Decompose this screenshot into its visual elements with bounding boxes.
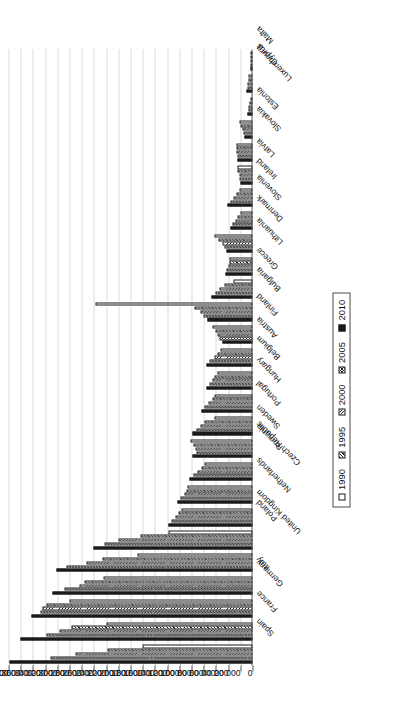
bar-1995 bbox=[236, 146, 252, 149]
bar-2005 bbox=[209, 382, 252, 385]
bar-1995 bbox=[201, 466, 252, 469]
bar-2000 bbox=[219, 287, 252, 290]
bar-2005 bbox=[237, 154, 252, 157]
bar-group bbox=[8, 505, 252, 528]
bar-2000 bbox=[233, 196, 252, 199]
rotated-chart-canvas: 400 000380 000360 000340 000320 000300 0… bbox=[0, 0, 415, 713]
legend-item-1990: 1990 bbox=[336, 469, 346, 500]
bar-1990 bbox=[187, 485, 252, 488]
bar-1995 bbox=[237, 169, 252, 172]
axis-tick-label: 0 bbox=[247, 669, 252, 678]
category-label: France bbox=[254, 589, 278, 613]
bar-1995 bbox=[194, 306, 252, 309]
legend-label-2010: 2010 bbox=[336, 299, 346, 320]
bar-1995 bbox=[237, 215, 252, 218]
bar-2010 bbox=[237, 158, 252, 161]
legend-item-2005: 2005 bbox=[336, 342, 346, 373]
chart-legend: 19901995200020052010 bbox=[332, 292, 350, 507]
category-label: Italy bbox=[254, 554, 271, 571]
bar-2010 bbox=[168, 523, 252, 526]
bar-2000 bbox=[212, 378, 252, 381]
bar-1995 bbox=[224, 283, 252, 286]
bar-group bbox=[8, 72, 252, 95]
bar-group bbox=[8, 300, 252, 323]
bar-2005 bbox=[215, 291, 252, 294]
bar-2000 bbox=[235, 219, 252, 222]
bar-2000 bbox=[208, 401, 252, 404]
legend-swatch-2010 bbox=[338, 324, 345, 331]
bar-group bbox=[8, 414, 252, 437]
plot-area bbox=[8, 49, 252, 665]
legend-item-2010: 2010 bbox=[336, 299, 346, 330]
legend-item-2000: 2000 bbox=[336, 384, 346, 415]
category-label: Finland bbox=[254, 291, 279, 316]
axis-tick-label: 20 000 bbox=[214, 669, 240, 678]
bar-2010 bbox=[20, 637, 252, 640]
bar-1990 bbox=[240, 211, 252, 214]
bar-1990 bbox=[214, 394, 252, 397]
bar-1995 bbox=[212, 397, 252, 400]
bar-1990 bbox=[204, 462, 252, 465]
bar-2000 bbox=[195, 447, 252, 450]
bar-2010 bbox=[230, 226, 252, 229]
bar-2000 bbox=[200, 310, 252, 313]
bar-1995 bbox=[46, 603, 252, 606]
bar-2000 bbox=[236, 150, 252, 153]
legend-label-1990: 1990 bbox=[336, 469, 346, 490]
bar-1990 bbox=[237, 165, 252, 168]
bar-1995 bbox=[229, 260, 252, 263]
bar-1990 bbox=[95, 302, 252, 305]
legend-label-1995: 1995 bbox=[336, 426, 346, 447]
bar-group bbox=[8, 574, 252, 597]
bar-2005 bbox=[50, 656, 252, 659]
category-label: Slovakia bbox=[254, 104, 282, 132]
bar-group bbox=[8, 254, 252, 277]
bar-group bbox=[8, 346, 252, 369]
bar-1995 bbox=[140, 534, 252, 537]
bar-1990 bbox=[217, 371, 252, 374]
bar-2010 bbox=[240, 181, 252, 184]
bar-group bbox=[8, 437, 252, 460]
bar-1990 bbox=[168, 530, 252, 533]
bar-2005 bbox=[46, 633, 252, 636]
bar-1995 bbox=[236, 192, 252, 195]
bar-2005 bbox=[180, 496, 252, 499]
bar-1990 bbox=[220, 348, 252, 351]
bar-2000 bbox=[79, 584, 252, 587]
bar-group bbox=[8, 277, 252, 300]
bar-group bbox=[8, 186, 252, 209]
bar-2000 bbox=[242, 127, 252, 130]
bar-2010 bbox=[192, 431, 252, 434]
bar-2010 bbox=[93, 546, 252, 549]
bar-1995 bbox=[240, 124, 252, 127]
bar-1995 bbox=[84, 580, 252, 583]
bar-group bbox=[8, 49, 252, 72]
bar-2000 bbox=[59, 629, 252, 632]
bar-group bbox=[8, 597, 252, 620]
bar-group bbox=[8, 642, 252, 665]
bar-2010 bbox=[206, 386, 252, 389]
bar-2010 bbox=[222, 340, 253, 343]
bar-2010 bbox=[226, 249, 252, 252]
bar-2010 bbox=[206, 363, 252, 366]
bar-2000 bbox=[239, 173, 252, 176]
bar-1995 bbox=[102, 557, 252, 560]
bar-1995 bbox=[186, 489, 252, 492]
bar-2000 bbox=[217, 333, 252, 336]
bar-2005 bbox=[224, 245, 252, 248]
bar-2005 bbox=[239, 177, 252, 180]
figure-root: 400 000380 000360 000340 000320 000300 0… bbox=[0, 0, 415, 713]
legend-swatch-1990 bbox=[338, 493, 345, 500]
bar-1990 bbox=[106, 622, 252, 625]
bar-2010 bbox=[9, 660, 252, 663]
bar-1995 bbox=[71, 625, 252, 628]
bar-2005 bbox=[209, 359, 252, 362]
bar-2000 bbox=[118, 538, 252, 541]
bar-chart: 400 000380 000360 000340 000320 000300 0… bbox=[0, 0, 415, 713]
category-label: Spain bbox=[254, 617, 275, 638]
bar-2010 bbox=[201, 409, 252, 412]
bar-1995 bbox=[178, 511, 252, 514]
bar-1990 bbox=[212, 325, 252, 328]
bar-2005 bbox=[66, 565, 252, 568]
bar-1995 bbox=[215, 329, 252, 332]
